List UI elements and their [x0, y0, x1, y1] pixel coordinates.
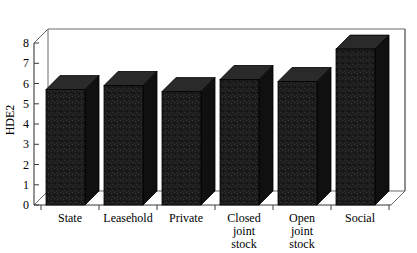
x-category-label-closed-joint-stock-line3: stock [231, 237, 256, 251]
y-axis-title: HDE2 [3, 105, 17, 136]
y-tick-label-7: 7 [23, 56, 29, 70]
y-tick-label-1: 1 [23, 178, 29, 192]
bar-leasehold-front [104, 86, 143, 206]
bar-closed-joint-stock-side [259, 66, 273, 206]
bar-state-side [85, 76, 99, 205]
x-category-label-social: Social [345, 211, 376, 225]
x-category-label-open-joint-stock-line2: joint [290, 224, 314, 238]
y-tick-label-8: 8 [23, 36, 29, 50]
x-category-label-open-joint-stock-line3: stock [289, 237, 314, 251]
bar-private-side [201, 78, 215, 205]
x-category-label-state: State [58, 211, 82, 225]
bar-open-joint-stock-front [278, 82, 317, 206]
bar-open-joint-stock[interactable] [278, 68, 331, 206]
y-tick-label-2: 2 [23, 158, 29, 172]
bar-closed-joint-stock-front [220, 80, 259, 206]
bar-closed-joint-stock[interactable] [220, 66, 273, 206]
y-tick-label-4: 4 [23, 117, 29, 131]
bar-state[interactable] [46, 76, 99, 205]
bar-state-front [46, 90, 85, 205]
bar-leasehold[interactable] [104, 72, 157, 206]
x-category-label-open-joint-stock-line1: Open [289, 211, 315, 225]
y-tick-label-3: 3 [23, 137, 29, 151]
x-category-label-closed-joint-stock-line2: joint [232, 224, 256, 238]
y-tick-label-6: 6 [23, 77, 29, 91]
bar-chart-svg: 0 1 2 3 4 5 6 7 8 HDE2 [0, 0, 417, 253]
bar-open-joint-stock-side [317, 68, 331, 206]
bar-social[interactable] [336, 35, 389, 205]
x-category-label-leasehold: Leasehold [103, 211, 152, 225]
y-tick-label-0: 0 [23, 198, 29, 212]
x-axis: State Leasehold Private Closed joint sto… [41, 205, 389, 251]
chart-container: 0 1 2 3 4 5 6 7 8 HDE2 [0, 0, 417, 253]
y-tick-label-5: 5 [23, 97, 29, 111]
x-category-label-closed-joint-stock-line1: Closed [227, 211, 260, 225]
bar-social-front [336, 49, 375, 205]
x-category-label-private: Private [169, 211, 203, 225]
bar-private[interactable] [162, 78, 215, 205]
bar-private-front [162, 92, 201, 205]
bar-social-side [375, 35, 389, 205]
bar-leasehold-side [143, 72, 157, 206]
